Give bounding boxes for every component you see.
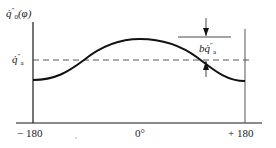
x-tick-zero: 0°	[135, 128, 145, 139]
x-tick-minus-180: − 180	[17, 128, 42, 139]
average-flux-label: q̇″a	[12, 53, 24, 67]
y-axis-label: q̇″0(φ)	[6, 7, 31, 21]
stray-mark	[75, 137, 76, 138]
arrow-down-icon	[203, 28, 209, 36]
x-tick-plus-180: + 180	[228, 128, 253, 139]
delta-label: bq̇″a	[199, 42, 216, 56]
heat-flux-diagram	[0, 0, 276, 148]
